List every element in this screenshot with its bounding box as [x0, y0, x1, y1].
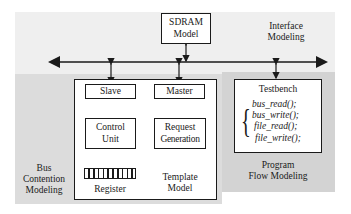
slave-box: Slave [85, 84, 136, 99]
master-box: Master [154, 84, 205, 99]
bus-contention-modeling-label: Bus Contention Modeling [15, 163, 73, 196]
register-icon [84, 168, 136, 179]
brace-icon: { [241, 99, 251, 143]
sdram-label-line2: Model [162, 29, 210, 41]
function-item: file_write(); [252, 133, 301, 144]
control-unit-box: Control Unit [85, 118, 136, 149]
testbench-function-list: bus_read(); bus_write(); file_read(); fi… [252, 99, 301, 144]
request-generation-box: Request Generation [154, 118, 206, 149]
function-item: file_read(); [252, 121, 301, 132]
function-item: bus_write(); [252, 110, 301, 121]
bus-left-arrow-icon [48, 56, 60, 68]
register-label: Register [84, 184, 136, 195]
testbench-box: Testbench { bus_read(); bus_write(); fil… [234, 79, 322, 153]
template-model-label: Template Model [155, 172, 205, 194]
interface-modeling-label: Interface Modeling [253, 21, 319, 43]
sdram-model-box: SDRAM Model [161, 13, 211, 44]
testbench-title: Testbench [235, 84, 321, 96]
bus-right-arrow-icon [316, 56, 328, 68]
sdram-label-line1: SDRAM [162, 17, 210, 29]
function-item: bus_read(); [252, 99, 301, 110]
program-flow-modeling-label: Program Flow Modeling [232, 160, 324, 182]
